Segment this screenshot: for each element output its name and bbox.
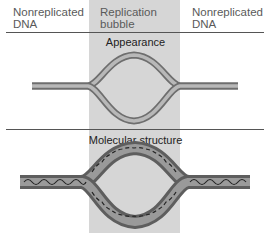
dna-diagram (0, 0, 271, 233)
appearance-dna-strand (32, 55, 238, 121)
molecular-dna-helix (20, 148, 250, 222)
